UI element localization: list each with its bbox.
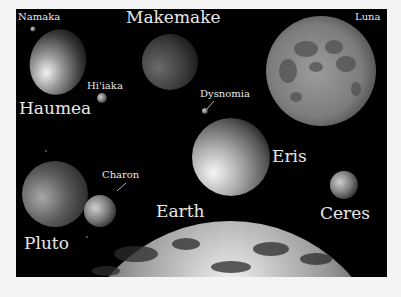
eris-label: Eris (272, 148, 307, 165)
charon-pointer (117, 183, 126, 191)
dysnomia-label: Dysnomia (200, 89, 250, 99)
pluto-body (22, 161, 88, 227)
charon-label: Charon (102, 170, 139, 180)
pluto-label: Pluto (24, 235, 69, 252)
celestial-bodies-illustration (16, 9, 387, 277)
namaka-label: Namaka (18, 12, 60, 22)
hiiaka-body (97, 93, 107, 103)
haumea-body (22, 23, 93, 101)
dwarf-planets-comparison-panel: Namaka Haumea Hi'iaka Makemake Luna Dysn… (16, 9, 387, 277)
ceres-body (330, 171, 358, 199)
ceres-label: Ceres (320, 205, 370, 222)
luna-label: Luna (355, 12, 380, 22)
namaka-body (31, 27, 36, 32)
dysnomia-pointer (207, 101, 214, 109)
makemake-body (142, 34, 198, 90)
charon-body (84, 195, 116, 227)
hiiaka-label: Hi'iaka (87, 81, 123, 91)
earth-label: Earth (156, 203, 204, 220)
haumea-label: Haumea (19, 100, 91, 117)
makemake-label: Makemake (126, 9, 221, 26)
eris-body (192, 118, 270, 196)
